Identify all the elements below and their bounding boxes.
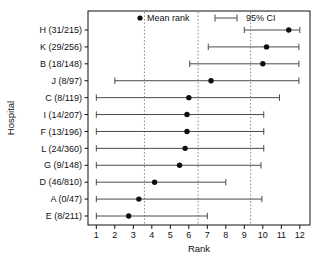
mean-rank-dot: [184, 129, 189, 134]
mean-rank-dot: [136, 196, 141, 201]
x-tick-label: 1: [94, 230, 99, 240]
legend-ci-label: 95% CI: [246, 13, 276, 23]
x-tick-label: 7: [205, 230, 210, 240]
category-label: E (8/211): [46, 211, 82, 221]
mean-rank-dot: [184, 112, 189, 117]
category-label: G (9/148): [44, 160, 82, 170]
y-axis-title: Hospital: [5, 101, 16, 135]
category-label: C (8/119): [45, 93, 82, 103]
mean-rank-dot: [126, 213, 131, 218]
x-tick-label: 12: [295, 230, 305, 240]
mean-rank-dot: [152, 179, 157, 184]
x-tick-label: 11: [277, 230, 286, 240]
x-tick-label: 3: [131, 230, 136, 240]
rank-forest-plot: Mean rank95% CIH (31/215)K (29/256)B (18…: [0, 0, 320, 270]
category-label: D (46/810): [39, 177, 82, 187]
forest-plot-figure: Mean rank95% CIH (31/215)K (29/256)B (18…: [0, 0, 320, 270]
mean-rank-dot: [264, 44, 269, 49]
category-label: K (29/256): [40, 42, 82, 52]
mean-rank-dot: [260, 61, 265, 66]
mean-rank-dot: [186, 95, 191, 100]
mean-rank-dot: [208, 78, 213, 83]
x-axis-title: Rank: [188, 243, 210, 254]
category-label: J (8/97): [51, 76, 82, 86]
x-tick-label: 9: [242, 230, 247, 240]
category-label: H (31/215): [39, 25, 82, 35]
legend-mean-marker: [137, 15, 142, 20]
category-label: I (14/207): [43, 110, 82, 120]
x-tick-label: 6: [186, 230, 191, 240]
x-tick-label: 8: [223, 230, 228, 240]
plot-frame: [88, 11, 310, 225]
category-label: L (24/360): [41, 144, 82, 154]
mean-rank-dot: [177, 163, 182, 168]
mean-rank-dot: [286, 27, 291, 32]
x-tick-label: 2: [112, 230, 117, 240]
x-tick-label: 10: [258, 230, 268, 240]
x-tick-label: 4: [149, 230, 154, 240]
mean-rank-dot: [182, 146, 187, 151]
category-label: B (18/148): [40, 59, 82, 69]
legend-mean-label: Mean rank: [147, 13, 190, 23]
category-label: F (13/196): [40, 127, 82, 137]
category-label: A (0/47): [50, 194, 82, 204]
x-tick-label: 5: [168, 230, 173, 240]
